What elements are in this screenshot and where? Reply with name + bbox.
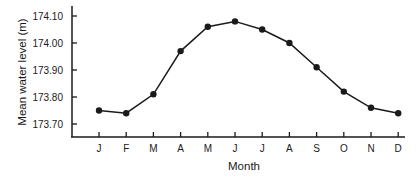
data-point <box>177 48 183 54</box>
x-axis-ticks: JFMAMJJASOND <box>97 132 402 154</box>
x-tick-label: J <box>97 143 102 154</box>
y-tick-label: 173.80 <box>32 92 63 103</box>
data-point <box>96 107 102 113</box>
y-tick-label: 173.90 <box>32 65 63 76</box>
data-point <box>286 40 292 46</box>
x-tick-label: N <box>367 143 374 154</box>
x-tick-label: F <box>123 143 129 154</box>
y-axis-ticks: 173.70173.80173.90174.00174.10 <box>32 11 77 130</box>
x-axis-title: Month <box>228 160 260 172</box>
x-tick-label: S <box>313 143 320 154</box>
y-axis-title: Mean water level (m) <box>16 18 28 126</box>
y-tick-label: 174.00 <box>32 38 63 49</box>
data-point <box>341 88 347 94</box>
data-point <box>313 64 319 70</box>
x-tick-label: M <box>149 143 157 154</box>
x-tick-label: A <box>177 143 184 154</box>
series-line <box>99 21 398 113</box>
y-tick-label: 174.10 <box>32 11 63 22</box>
data-point <box>123 110 129 116</box>
x-tick-label: A <box>286 143 293 154</box>
x-tick-label: M <box>204 143 212 154</box>
svg-text:Mean water level (m): Mean water level (m) <box>16 18 28 126</box>
water-level-chart: Mean water level (m) 173.70173.80173.901… <box>0 0 416 180</box>
data-point <box>395 110 401 116</box>
x-tick-label: J <box>260 143 265 154</box>
x-tick-label: D <box>395 143 402 154</box>
x-tick-label: J <box>233 143 238 154</box>
data-point <box>368 105 374 111</box>
x-tick-label: O <box>340 143 348 154</box>
y-tick-label: 173.70 <box>32 119 63 130</box>
data-point <box>259 26 265 32</box>
data-point <box>150 91 156 97</box>
data-point <box>205 24 211 30</box>
data-point <box>232 18 238 24</box>
